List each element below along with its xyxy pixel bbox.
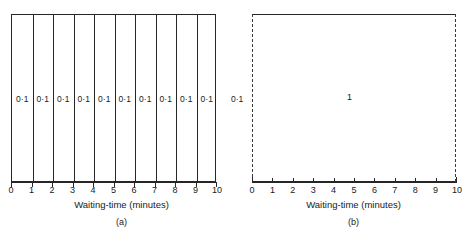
x-axis-tick-label: 8	[404, 185, 426, 195]
x-axis-tick	[313, 178, 314, 182]
plot-edge-right-dashed	[455, 14, 456, 182]
x-axis-tick-label: 10	[206, 185, 228, 195]
x-axis-tick-label: 2	[282, 185, 304, 195]
panel-a: 0·1 0·1 0·1 0·1 0·1 0·1 0·1 0·1 0·1 0·1 …	[0, 0, 237, 237]
x-axis-tick	[456, 177, 457, 182]
x-axis-tick-label: 2	[41, 185, 63, 195]
bar-label: 0·1	[197, 15, 218, 183]
bar-label: 0·1	[94, 15, 115, 183]
x-axis-tick	[334, 178, 335, 182]
x-axis-tick-label: 8	[164, 185, 186, 195]
x-axis-tick	[252, 177, 253, 182]
x-axis-tick-label: 6	[363, 185, 385, 195]
panel-caption: (b)	[235, 217, 472, 227]
x-axis-tick-label: 0	[0, 185, 22, 195]
panel-caption: (a)	[3, 217, 240, 227]
x-axis-tick-label: 1	[21, 185, 43, 195]
x-axis-tick-label: 5	[103, 185, 125, 195]
x-axis-tick-label: 7	[144, 185, 166, 195]
figure: 0·1 0·1 0·1 0·1 0·1 0·1 0·1 0·1 0·1 0·1 …	[0, 0, 475, 237]
x-axis-tick-label: 4	[323, 185, 345, 195]
plot-area-b: 1	[252, 14, 456, 182]
x-axis-tick-label: 0	[241, 185, 263, 195]
x-axis-tick	[354, 178, 355, 182]
bar-label: 0·1	[53, 15, 74, 183]
x-axis-tick-label: 10	[446, 185, 468, 195]
bar-label: 0·1	[176, 15, 197, 183]
x-axis-tick	[415, 178, 416, 182]
plot-area-a: 0·1 0·1 0·1 0·1 0·1 0·1 0·1 0·1 0·1 0·1	[11, 14, 216, 182]
x-axis-tick	[374, 178, 375, 182]
x-axis-tick-label: 5	[343, 185, 365, 195]
x-axis-title: Waiting-time (minutes)	[3, 199, 240, 210]
x-axis-tick	[436, 178, 437, 182]
plot-edge-left-dashed	[252, 14, 253, 182]
bar-label: 0·1	[115, 15, 136, 183]
x-axis-line-b	[252, 182, 457, 183]
x-axis-tick-label: 9	[425, 185, 447, 195]
x-axis-tick-label: 3	[302, 185, 324, 195]
x-axis-tick-label: 3	[62, 185, 84, 195]
bar-label: 0·1	[74, 15, 95, 183]
panel-b: 1 0·1 0 1 2 3 4 5 6 7 8 9 10 Waiting-tim…	[238, 0, 475, 237]
x-axis-tick	[293, 178, 294, 182]
x-axis-tick-label: 7	[384, 185, 406, 195]
x-axis-tick-label: 1	[261, 185, 283, 195]
x-axis-tick	[272, 178, 273, 182]
area-label: 1	[347, 92, 352, 102]
density-label: 0·1	[231, 94, 243, 104]
plot-edge-top	[252, 14, 456, 15]
x-axis-tick-label: 9	[185, 185, 207, 195]
x-axis-tick	[395, 178, 396, 182]
bar-label: 0·1	[135, 15, 156, 183]
x-axis-tick-label: 6	[123, 185, 145, 195]
x-axis-title: Waiting-time (minutes)	[235, 199, 472, 210]
bar-label: 0·1	[12, 15, 33, 183]
x-axis-tick-label: 4	[82, 185, 104, 195]
bar-label: 0·1	[156, 15, 177, 183]
bar-label: 0·1	[33, 15, 54, 183]
